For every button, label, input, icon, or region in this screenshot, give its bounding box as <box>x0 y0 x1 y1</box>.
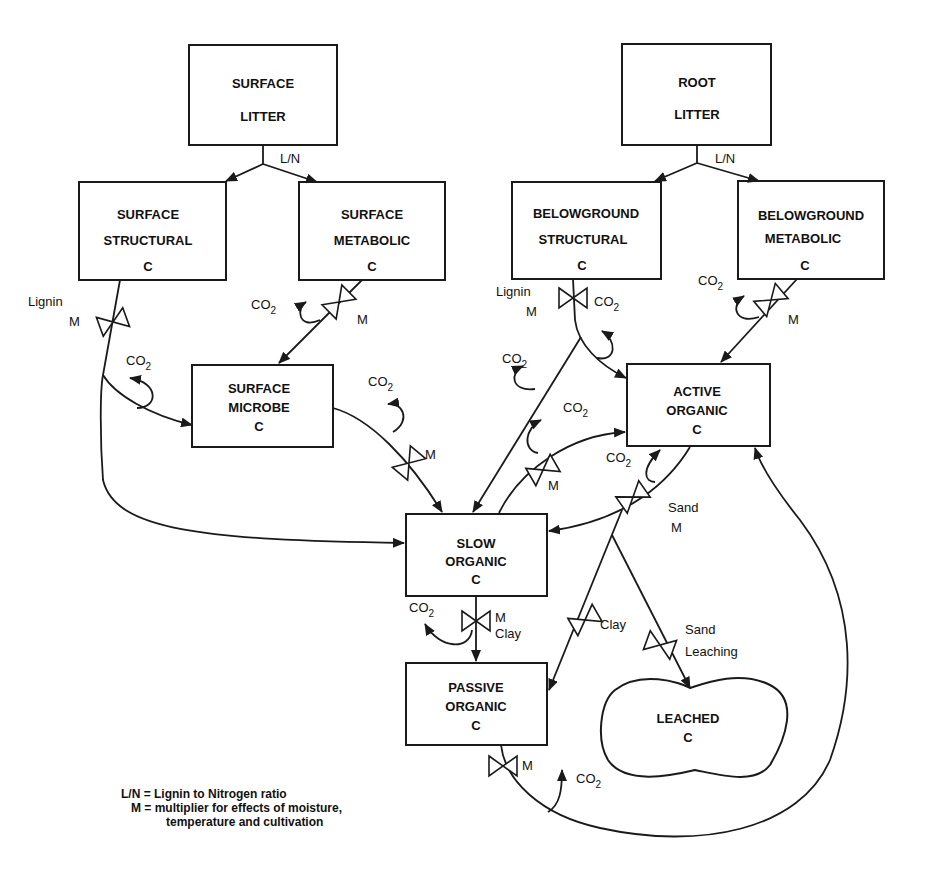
co2-label: CO2 <box>698 273 724 292</box>
lignin-label: Lignin <box>28 294 63 309</box>
pool-label: C <box>683 730 693 745</box>
m-label: M <box>522 758 533 773</box>
co2-label: CO2 <box>576 771 602 790</box>
co2-label: CO2 <box>502 351 528 370</box>
pool-label: ORGANIC <box>445 699 507 714</box>
m-label: M <box>357 312 368 327</box>
valve-icon <box>643 631 676 659</box>
m-label: M <box>671 520 682 535</box>
m-label: M <box>495 610 506 625</box>
valve-icon <box>754 283 788 316</box>
flow-active-outputs: CO2 Sand M Clay Sand Leaching <box>549 447 738 690</box>
flow-belowground-metabolic: CO2 M <box>698 273 799 362</box>
pool-label: LITTER <box>240 109 286 124</box>
pool-label: MICROBE <box>228 400 290 415</box>
leaching-label: Leaching <box>685 644 738 659</box>
m-label: M <box>788 312 799 327</box>
legend: L/N = Lignin to Nitrogen ratio M = multi… <box>121 787 342 829</box>
flow-root-litter-split: L/N <box>655 145 759 181</box>
pool-label: SURFACE <box>228 381 290 396</box>
pool-surface-microbe: SURFACE MICROBE C <box>192 365 333 447</box>
ln-label: L/N <box>715 151 735 166</box>
pool-label: ORGANIC <box>666 403 728 418</box>
pool-label: BELOWGROUND <box>533 206 639 221</box>
m-label: M <box>425 447 436 462</box>
pool-label: PASSIVE <box>448 680 504 695</box>
valve-icon <box>489 756 517 776</box>
pool-label: ACTIVE <box>673 384 721 399</box>
pool-label: ROOT <box>678 75 716 90</box>
pool-label: ORGANIC <box>445 554 507 569</box>
co2-label: CO2 <box>606 450 632 469</box>
pool-root-litter: ROOT LITTER <box>622 44 771 145</box>
pool-label: SURFACE <box>232 76 294 91</box>
pool-label: METABOLIC <box>765 231 842 246</box>
pool-label: BELOWGROUND <box>758 208 864 223</box>
pool-belowground-structural: BELOWGROUND STRUCTURAL C <box>512 182 661 279</box>
pool-slow-organic: SLOW ORGANIC C <box>406 514 547 596</box>
pool-label: C <box>254 419 264 434</box>
flow-surface-litter-split: L/N <box>226 145 317 182</box>
clay-label: Clay <box>600 617 627 632</box>
co2-label: CO2 <box>563 400 589 419</box>
pool-label: STRUCTURAL <box>539 232 628 247</box>
pool-label: LEACHED <box>657 711 720 726</box>
pool-label: C <box>800 258 810 273</box>
co2-label: CO2 <box>368 374 394 393</box>
co2-label: CO2 <box>409 600 435 619</box>
pool-label: SURFACE <box>341 207 403 222</box>
legend-m-cont: temperature and cultivation <box>121 815 342 829</box>
legend-ln: L/N = Lignin to Nitrogen ratio <box>121 787 342 801</box>
legend-m: M = multiplier for effects of moisture, <box>121 801 342 815</box>
carbon-flow-diagram: SURFACE LITTER ROOT LITTER SURFACE STRUC… <box>0 0 925 872</box>
pool-label: SURFACE <box>117 207 179 222</box>
pool-label: C <box>471 572 481 587</box>
pool-label: C <box>577 258 587 273</box>
co2-label: CO2 <box>251 297 277 316</box>
co2-label: CO2 <box>594 294 620 313</box>
pool-active-organic: ACTIVE ORGANIC C <box>627 364 770 446</box>
pool-label: C <box>692 422 702 437</box>
pool-leached: LEACHED C <box>601 678 787 777</box>
pool-label: STRUCTURAL <box>104 233 193 248</box>
pool-surface-structural: SURFACE STRUCTURAL C <box>79 182 226 280</box>
pool-label: C <box>143 259 153 274</box>
m-label: M <box>526 304 537 319</box>
pool-surface-litter: SURFACE LITTER <box>189 45 337 145</box>
m-label: M <box>69 314 80 329</box>
ln-label: L/N <box>280 151 300 166</box>
pool-surface-metabolic: SURFACE METABOLIC C <box>299 182 445 280</box>
pool-label: C <box>471 718 481 733</box>
clay-label: Clay <box>495 626 522 641</box>
pool-passive-organic: PASSIVE ORGANIC C <box>406 663 547 745</box>
sand-label: Sand <box>668 500 698 515</box>
valve-icon <box>616 481 650 513</box>
valve-icon <box>96 308 129 336</box>
pool-label: SLOW <box>457 536 497 551</box>
pool-label: LITTER <box>674 107 720 122</box>
pool-label: C <box>367 259 377 274</box>
pool-belowground-metabolic: BELOWGROUND METABOLIC C <box>738 181 884 279</box>
sand-label: Sand <box>685 622 715 637</box>
pool-label: METABOLIC <box>334 233 411 248</box>
m-label: M <box>548 478 559 493</box>
flow-surface-microbe-slow: CO2 M <box>333 374 442 512</box>
co2-label: CO2 <box>126 353 152 372</box>
lignin-label: Lignin <box>496 284 531 299</box>
valve-icon <box>392 446 425 480</box>
